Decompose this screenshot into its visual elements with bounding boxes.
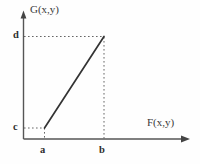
y-axis-label: G(x,y) [30, 4, 59, 15]
y-axis-arrow [21, 11, 27, 140]
x-tick-label-b: b [99, 145, 105, 156]
transfer-function-segment [45, 37, 105, 129]
x-tick-label-a: a [40, 145, 45, 156]
figure-container: G(x,y) F(x,y) d c a b [0, 0, 200, 164]
x-axis-arrowhead [181, 136, 190, 143]
x-axis-label: F(x,y) [147, 117, 174, 128]
y-axis-arrowhead [21, 11, 27, 19]
x-axis-arrow [24, 136, 191, 143]
y-tick-label-d: d [13, 30, 19, 41]
plot-canvas [0, 0, 200, 164]
y-tick-label-c: c [13, 122, 18, 133]
